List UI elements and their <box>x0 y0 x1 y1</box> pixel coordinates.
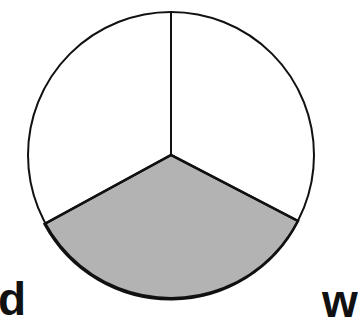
text-fragment-left: d <box>0 276 26 321</box>
text-fragment-right: w <box>322 278 358 321</box>
shaded-sector <box>45 155 299 299</box>
